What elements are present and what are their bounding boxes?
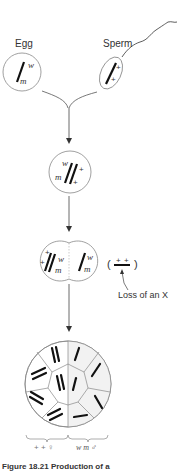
egg-allele-m: m xyxy=(20,76,27,86)
right-cell-w: w xyxy=(87,252,93,262)
female-genotype-label: + + ♀ xyxy=(34,443,54,452)
figure-caption: Figure 18.21 Production of a xyxy=(2,462,110,471)
right-cell-m: m xyxy=(84,264,91,274)
zygote-allele-plus-2: + xyxy=(73,178,78,187)
right-paren: ) xyxy=(134,258,138,270)
zygote-allele-m: m xyxy=(55,172,62,182)
arrow-down-icon xyxy=(66,226,72,232)
male-genotype-label: w m ♂ xyxy=(76,443,97,452)
left-cell-plus-1: + xyxy=(45,248,50,257)
zygote-allele-plus-1: + xyxy=(79,165,84,174)
arrow-down-icon xyxy=(66,138,72,144)
male-brace xyxy=(68,435,108,442)
mosaic-embryo xyxy=(25,341,111,427)
lost-plus-1: + xyxy=(116,256,121,265)
left-cell-plus-2: + xyxy=(40,258,45,267)
left-cell-w: w xyxy=(58,254,64,264)
sperm-cell xyxy=(95,22,177,93)
left-paren: ( xyxy=(107,258,111,270)
arrow-down-icon xyxy=(66,326,72,332)
sperm-allele-2: + xyxy=(111,75,116,84)
egg-allele-w: w xyxy=(28,60,34,70)
pointer-arrow-icon xyxy=(120,269,124,274)
zygote-allele-w: w xyxy=(62,158,68,168)
female-brace xyxy=(26,435,68,442)
left-cell-m: m xyxy=(55,265,62,275)
egg-label: Egg xyxy=(15,38,33,49)
sperm-label: Sperm xyxy=(103,38,132,49)
loss-of-x-label: Loss of an X xyxy=(118,290,168,300)
lost-plus-2: + xyxy=(124,256,129,265)
sperm-allele-1: + xyxy=(116,63,121,72)
